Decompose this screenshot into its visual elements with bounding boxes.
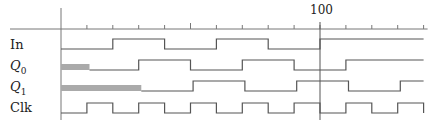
- signal-label-in: In: [10, 38, 24, 52]
- waveform-in: [61, 39, 424, 49]
- unknown-state-q1: [61, 85, 141, 91]
- signal-label-clk: Clk: [10, 101, 32, 115]
- timing-waveform-canvas: [0, 0, 438, 126]
- waveform-q0: [89, 60, 423, 70]
- unknown-state-q0: [61, 64, 89, 70]
- signal-label-q0: Q0: [10, 59, 26, 78]
- signal-label-q1: Q1: [10, 80, 26, 99]
- waveform-q1: [141, 81, 423, 91]
- time-marker-label: 100: [310, 3, 333, 17]
- waveform-clk: [61, 103, 424, 113]
